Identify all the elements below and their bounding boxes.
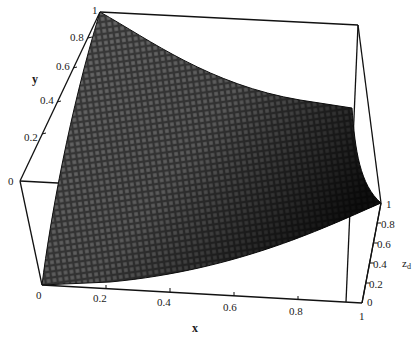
z-axis-ticks [366, 223, 381, 283]
y-tick-0-6: 0.6 [56, 61, 70, 72]
surface-plot [0, 0, 418, 337]
y-axis-title: y [32, 73, 38, 85]
z-tick-0-2: 0.2 [369, 279, 383, 290]
x-tick-0-2: 0.2 [93, 293, 107, 304]
surface [42, 12, 381, 285]
x-tick-0-8: 0.8 [289, 306, 303, 317]
x-axis-title: x [192, 322, 198, 334]
y-tick-0-4: 0.4 [40, 95, 54, 106]
z-tick-0-8: 0.8 [381, 219, 395, 230]
z-tick-0-6: 0.6 [377, 239, 391, 250]
x-tick-0-6: 0.6 [223, 302, 237, 313]
y-tick-0-2: 0.2 [24, 132, 38, 143]
z-axis-title: zd [402, 258, 411, 271]
y-tick-0-8: 0.8 [70, 32, 84, 43]
x-tick-0-4: 0.4 [157, 297, 171, 308]
z-tick-1: 1 [386, 199, 392, 210]
x-tick-1: 1 [359, 311, 365, 322]
y-tick-1: 1 [92, 5, 98, 16]
z-tick-0-4: 0.4 [373, 259, 387, 270]
z-tick-0: 0 [367, 297, 373, 308]
x-tick-0: 0 [36, 290, 42, 301]
y-tick-0: 0 [8, 176, 14, 187]
